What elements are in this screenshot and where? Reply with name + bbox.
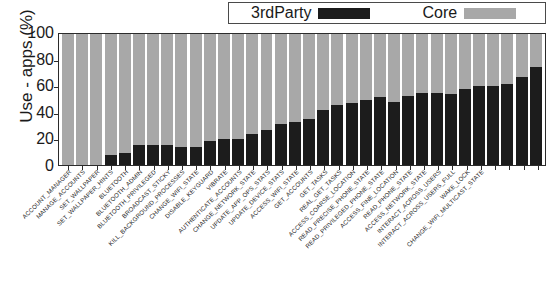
bar-KILL_BACKGROUND_PROCESSES [175,34,187,165]
bar-INTERACT_ACROSS_USERS_FULL [445,34,457,165]
bar-segment-core [487,34,499,86]
bar-segment-3rdparty [388,102,400,165]
bar-ACCESS_WIFI_STATE [289,34,301,165]
bar-segment-3rdparty [331,105,343,165]
bar-CHANGE_WIFI_STATE [190,34,202,165]
bar-segment-3rdparty [473,86,485,165]
bar-AUTHENTICATE_ACCOUNTS [232,34,244,165]
bar-BLUETOOTH_ADMIN [133,34,145,165]
y-tick-20: 20 [16,131,54,147]
bar-segment-3rdparty [119,153,131,165]
bar-segment-3rdparty [402,96,414,165]
bar-UPDATE_APP_OPS_STATS [261,34,273,165]
bar-segment-3rdparty [346,103,358,165]
bar-segment-core [473,34,485,86]
bar-segment-3rdparty [416,93,428,165]
chart-legend: 3rdParty Core [228,2,546,24]
y-tick-60: 60 [16,78,54,94]
legend-entry-3rdparty: 3rdParty [251,4,370,22]
bar-item-32 [516,34,528,165]
bar-segment-core [445,34,457,94]
bar-segment-3rdparty [317,110,329,165]
bar-segment-core [105,34,117,155]
y-tick-100: 100 [16,25,54,41]
bar-segment-3rdparty [161,145,173,165]
bar-segment-3rdparty [246,134,258,165]
bar-CHANGE_NETWORK_STATE [246,34,258,165]
bar-segment-core [374,34,386,97]
bar-segment-core [317,34,329,110]
bar-segment-core [501,34,513,84]
bar-CHANGE_WIFI_MULTICAST_STATE [473,34,485,165]
bar-DISABLE_KEYGUARD [204,34,216,165]
bar-ACCOUNT_MANAGER [62,34,74,165]
bar-SET_WALLPAPER_HINTS [105,34,117,165]
plot-area [58,33,546,166]
bar-segment-core [431,34,443,93]
bar-READ_PRIVILEGED_PHONE_STATE [374,34,386,165]
bar-segment-3rdparty [232,139,244,165]
y-tick-80: 80 [16,52,54,68]
bar-GET_ACCOUNTS [303,34,315,165]
bar-WAKE_LOCK [459,34,471,165]
y-tickmark-60 [54,87,59,88]
bar-segment-3rdparty [289,122,301,165]
bar-segment-core [346,34,358,103]
bar-segment-3rdparty [487,86,499,165]
legend-label-3rdparty: 3rdParty [251,4,311,22]
bar-segment-3rdparty [303,119,315,165]
bar-segment-3rdparty [105,155,117,165]
y-tickmark-80 [54,61,59,62]
bar-BLUETOOTH_PRIVILEGED [147,34,159,165]
bar-segment-3rdparty [175,147,187,165]
bar-segment-core [119,34,131,153]
bar-item-33 [530,34,542,165]
y-tickmark-40 [54,114,59,115]
bar-segment-core [190,34,202,147]
bar-segment-core [204,34,216,141]
bar-GET_TASKS [317,34,329,165]
bar-segment-core [90,34,102,165]
bar-segment-3rdparty [133,145,145,165]
bar-BLUETOOTH [119,34,131,165]
bar-segment-3rdparty [459,89,471,165]
bar-UPDATE_DEVICE_STATS [275,34,287,165]
bar-segment-core [161,34,173,145]
bar-segment-core [261,34,273,130]
bar-segment-3rdparty [190,147,202,165]
bar-segment-core [175,34,187,147]
legend-entry-core: Core [422,4,516,22]
bar-segment-3rdparty [218,139,230,165]
bar-segment-core [402,34,414,96]
bar-segment-core [459,34,471,89]
bar-segment-3rdparty [374,97,386,165]
bar-item-30 [487,34,499,165]
y-tick-40: 40 [16,105,54,121]
bar-segment-3rdparty [275,124,287,165]
bar-READ_PHONE_STATE [402,34,414,165]
bar-SET_WALLPAPER [90,34,102,165]
y-axis-tick-labels: 020406080100 [16,24,54,174]
bar-segment-core [416,34,428,93]
bar-segment-3rdparty [261,130,273,165]
bar-BROADCAST_STICKY [161,34,173,165]
bar-READ_PRECISE_PHONE_STATE [360,34,372,165]
bar-container [59,34,545,165]
bar-segment-core [388,34,400,102]
bar-segment-core [360,34,372,100]
bar-segment-3rdparty [204,141,216,165]
bar-segment-3rdparty [501,84,513,165]
bar-MANAGE_ACCOUNTS [76,34,88,165]
bar-segment-3rdparty [516,77,528,165]
bar-segment-core [133,34,145,145]
bar-INTERACT_ACROSS_USERS [431,34,443,165]
bar-ACCESS_NETWORK_STATE [416,34,428,165]
bar-ACCESS_COARSE_LOCATION [346,34,358,165]
bar-segment-core [232,34,244,139]
bar-segment-3rdparty [431,93,443,165]
bar-segment-3rdparty [445,94,457,165]
bar-segment-core [530,34,542,67]
bar-segment-3rdparty [360,100,372,166]
bar-REAL_GET_TASKS [331,34,343,165]
bar-segment-3rdparty [530,67,542,165]
